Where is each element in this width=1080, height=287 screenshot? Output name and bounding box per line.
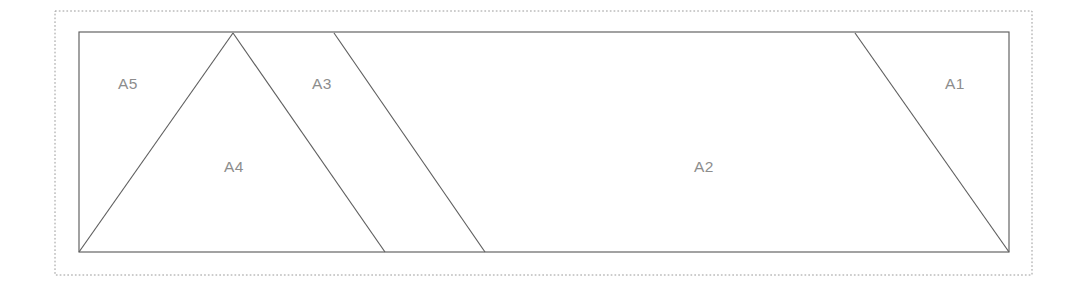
region-label-a1: A1: [945, 75, 965, 92]
geometry-diagram: A5 A4 A3 A2 A1: [0, 0, 1080, 287]
region-label-a5: A5: [118, 75, 138, 92]
region-label-a2: A2: [694, 158, 714, 175]
region-label-a4: A4: [224, 158, 244, 175]
region-label-a3: A3: [312, 75, 332, 92]
figure-container: A5 A4 A3 A2 A1: [0, 0, 1080, 287]
